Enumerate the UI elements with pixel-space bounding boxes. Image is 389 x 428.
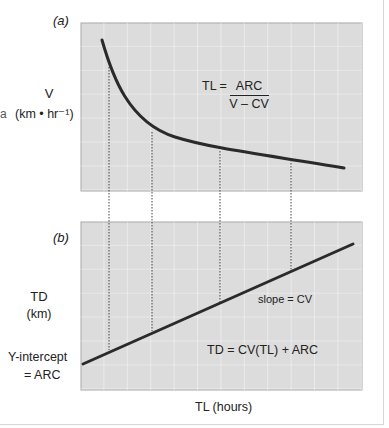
fraction-bar [230, 95, 269, 96]
panel-a-y-unit: (km • hr⁻¹) [15, 106, 74, 121]
panel-a-equation-lhs: TL = [202, 79, 227, 93]
panel-b-y-unit: (km) [21, 307, 57, 321]
panel-a-y-label: V [34, 86, 64, 101]
panel-b-y-label: TD [24, 289, 54, 304]
intercept-value: = ARC [24, 368, 60, 382]
panel-a-plot [81, 23, 362, 191]
panel-b-plot [81, 222, 362, 390]
intercept-label: Y-intercept [8, 350, 67, 364]
slope-label: slope = CV [258, 293, 312, 305]
panel-b-equation: TD = CV(TL) + ARC [207, 343, 318, 357]
x-axis-label: TL (hours) [195, 400, 252, 414]
edge-fragment: a [0, 107, 7, 121]
panel-b-label: (b) [53, 230, 69, 245]
panel-a-equation-denominator: V – CV [226, 97, 272, 111]
panel-a-label: (a) [53, 13, 69, 28]
panel-a-equation-numerator: ARC [228, 79, 270, 93]
